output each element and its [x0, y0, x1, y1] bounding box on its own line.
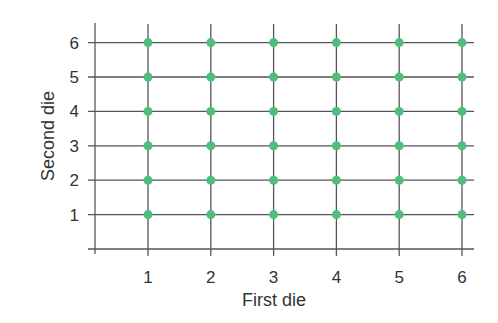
data-point: [395, 141, 404, 150]
x-tick-label: 5: [394, 268, 403, 287]
data-point: [269, 38, 278, 47]
x-tick-label: 1: [143, 268, 152, 287]
scatter-chart: 123456 123456 First die Second die: [0, 0, 498, 323]
data-point: [332, 73, 341, 82]
data-point: [332, 107, 341, 116]
data-point: [395, 176, 404, 185]
data-point: [144, 210, 153, 219]
data-point: [332, 176, 341, 185]
x-tick-label: 6: [457, 268, 466, 287]
data-point: [269, 73, 278, 82]
data-point: [206, 107, 215, 116]
data-point: [206, 141, 215, 150]
x-axis-label: First die: [242, 290, 306, 310]
data-point: [395, 38, 404, 47]
data-points: [144, 38, 467, 219]
data-point: [206, 176, 215, 185]
y-tick-label: 2: [70, 171, 79, 190]
x-tick-label: 3: [269, 268, 278, 287]
data-point: [458, 38, 467, 47]
data-point: [395, 210, 404, 219]
data-point: [144, 141, 153, 150]
data-point: [144, 73, 153, 82]
data-point: [395, 107, 404, 116]
data-point: [458, 73, 467, 82]
data-point: [269, 176, 278, 185]
data-point: [144, 38, 153, 47]
data-point: [206, 210, 215, 219]
x-tick-labels: 123456: [143, 268, 466, 287]
y-tick-label: 4: [70, 102, 79, 121]
y-tick-labels: 123456: [70, 34, 79, 225]
data-point: [458, 176, 467, 185]
data-point: [269, 141, 278, 150]
data-point: [458, 107, 467, 116]
data-point: [144, 107, 153, 116]
data-point: [332, 141, 341, 150]
y-tick-label: 6: [70, 34, 79, 53]
data-point: [206, 38, 215, 47]
axes: [88, 23, 474, 254]
data-point: [269, 210, 278, 219]
data-point: [269, 107, 278, 116]
data-point: [332, 210, 341, 219]
x-tick-label: 2: [206, 268, 215, 287]
x-tick-label: 4: [332, 268, 341, 287]
data-point: [458, 210, 467, 219]
y-tick-label: 1: [70, 206, 79, 225]
grid-lines: [88, 24, 474, 256]
y-tick-label: 5: [70, 68, 79, 87]
data-point: [144, 176, 153, 185]
y-tick-label: 3: [70, 137, 79, 156]
data-point: [395, 73, 404, 82]
data-point: [206, 73, 215, 82]
data-point: [458, 141, 467, 150]
data-point: [332, 38, 341, 47]
y-axis-label: Second die: [38, 91, 58, 181]
